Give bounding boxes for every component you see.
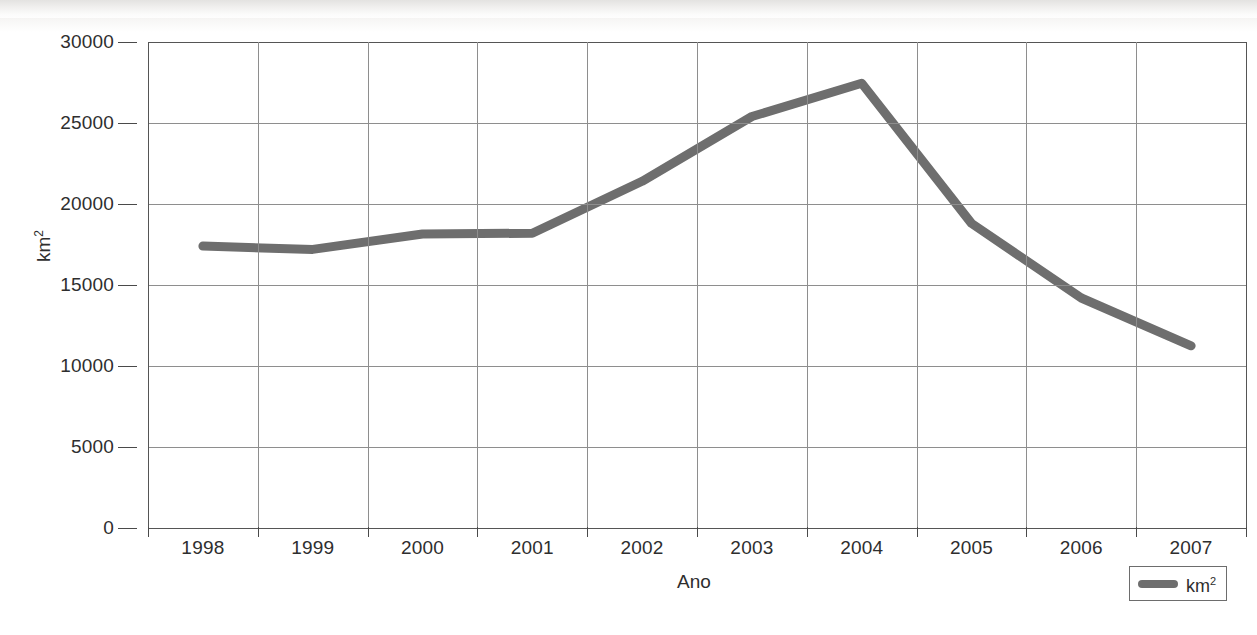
x-axis-tick-mark [148,527,149,537]
x-axis-tick-mark [917,527,918,537]
plot-area [148,42,1246,528]
y-axis-tick-labels: 050001000015000200002500030000 [0,0,148,580]
y-axis-tick-label: 20000 [60,194,114,213]
x-axis-title-text: Ano [677,572,711,591]
y-axis-tick-label: 0 [103,518,114,537]
y-axis-tick-label: 25000 [60,113,114,132]
x-axis-tick-mark [1026,527,1027,537]
y-axis-tick-label: 5000 [71,437,114,456]
x-axis-tick-label: 2004 [807,537,917,559]
chart-legend: km2 [1129,566,1227,601]
legend-label-km2: km2 [1186,572,1216,595]
gridline-vertical [1246,42,1247,528]
gridline-vertical [368,42,369,528]
legend-line-swatch-km2 [1138,580,1178,588]
x-axis-tick-mark [258,527,259,537]
gridline-vertical [258,42,259,528]
x-axis-tick-mark [1136,527,1137,537]
x-axis-tick-label: 2002 [587,537,697,559]
x-axis-tick-label: 2006 [1026,537,1136,559]
y-axis-tick-label: 10000 [60,356,114,375]
y-axis-tick-label: 15000 [60,275,114,294]
x-axis-tick-mark [807,527,808,537]
y-axis-tick-mark [118,366,137,367]
x-axis-tick-mark [368,527,369,537]
y-axis-title-text: km [33,237,54,262]
y-axis-title-superscript: 2 [32,230,46,237]
y-axis-title: km2 [30,230,53,262]
scan-artifact-band-secondary [0,18,1257,32]
x-axis-tick-label: 1998 [148,537,258,559]
chart-figure: 050001000015000200002500030000 km2 19981… [0,0,1257,635]
x-axis-tick-label: 2001 [477,537,587,559]
y-axis-tick-mark [118,123,137,124]
gridline-vertical [587,42,588,528]
x-axis-tick-label: 2005 [917,537,1027,559]
scan-artifact-band [0,0,1257,20]
x-axis-tick-mark [587,527,588,537]
y-axis-tick-mark [118,528,137,529]
gridline-vertical [148,42,149,528]
y-axis-tick-mark [118,42,137,43]
legend-label-text: km [1186,576,1210,596]
gridline-vertical [477,42,478,528]
x-axis-tick-mark [477,527,478,537]
y-axis-tick-mark [118,204,137,205]
legend-label-superscript: 2 [1210,575,1216,587]
gridline-vertical [807,42,808,528]
gridline-vertical [1026,42,1027,528]
gridline-vertical [697,42,698,528]
x-axis-tick-label: 2007 [1136,537,1246,559]
x-axis-tick-mark [697,527,698,537]
x-axis-tick-labels: 1998199920002001200220032004200520062007 [148,537,1246,567]
x-axis-tick-label: 2003 [697,537,807,559]
x-axis-tick-label: 2000 [368,537,478,559]
y-axis-tick-label: 30000 [60,32,114,51]
gridline-vertical [917,42,918,528]
y-axis-tick-mark [118,447,137,448]
y-axis-tick-mark [118,285,137,286]
x-axis-tick-mark [1246,527,1247,537]
x-axis-tick-label: 1999 [258,537,368,559]
gridline-vertical [1136,42,1137,528]
